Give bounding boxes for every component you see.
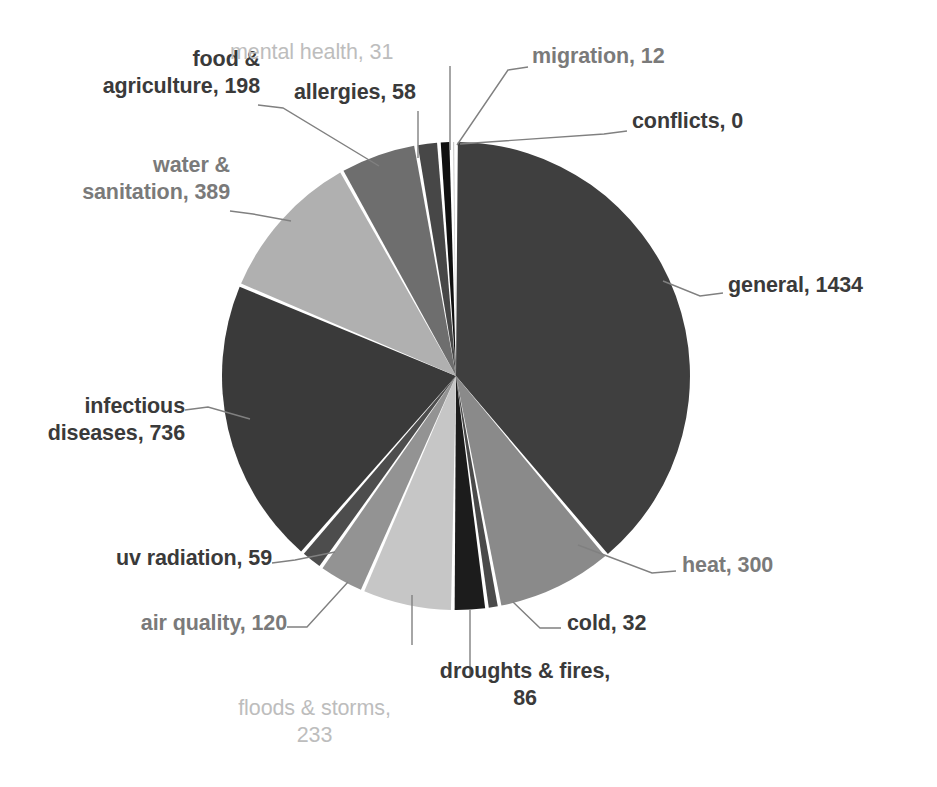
slice-label-heat: heat, 300 (682, 552, 902, 579)
slice-label-cold: cold, 32 (567, 610, 767, 637)
slice-label-allergies: allergies, 58 (294, 79, 494, 106)
leader-line-air-quality (287, 582, 348, 627)
leader-line-cold (513, 602, 561, 628)
leader-line-water-sanitation (230, 211, 291, 221)
slice-label-air-quality: air quality, 120 (47, 610, 287, 637)
slice-label-food-agriculture: food & agriculture, 198 (20, 46, 260, 100)
slice-label-migration: migration, 12 (532, 43, 792, 70)
slice-label-mental-health: mental health, 31 (230, 39, 470, 66)
slice-label-floods-storms: floods & storms, 233 (207, 695, 422, 749)
slice-label-uv-radiation: uv radiation, 59 (32, 545, 272, 572)
slice-label-water-sanitation: water & sanitation, 389 (5, 152, 230, 206)
slice-label-general: general, 1434 (728, 272, 937, 299)
pie-chart: food & agriculture, 198 mental health, 3… (0, 0, 937, 787)
pie-slice-group (222, 142, 690, 610)
slice-label-conflicts: conflicts, 0 (632, 108, 882, 135)
slice-label-droughts-fires: droughts & fires, 86 (425, 658, 625, 712)
leader-line-food-agriculture (258, 105, 379, 166)
slice-label-infectious-diseases: infectious diseases, 736 (0, 393, 185, 447)
leader-line-conflicts (460, 131, 627, 144)
